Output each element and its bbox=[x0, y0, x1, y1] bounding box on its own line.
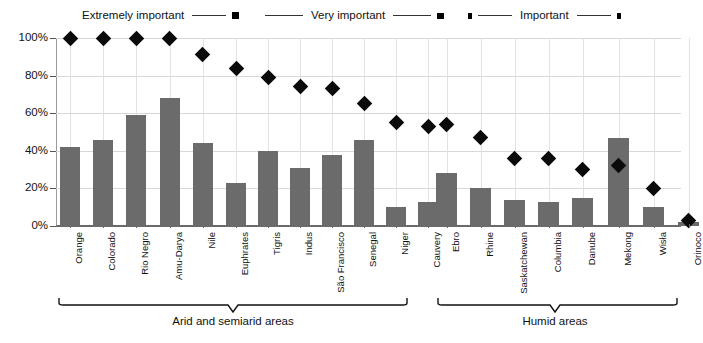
legend-label-important: Important bbox=[520, 10, 569, 22]
legend-line-important-left bbox=[478, 15, 512, 16]
x-axis-category-label: Mekong bbox=[623, 232, 633, 266]
x-axis-category-label: Nile bbox=[207, 232, 217, 248]
vertical-gridline bbox=[515, 38, 516, 226]
bar bbox=[572, 198, 593, 226]
x-axis-tick-mark bbox=[481, 224, 482, 228]
x-axis-category-label: Columbia bbox=[553, 232, 563, 272]
bracket-label-humid: Humid areas bbox=[495, 315, 615, 327]
y-axis-tick-label: 60% bbox=[2, 106, 48, 118]
bar bbox=[504, 200, 525, 226]
x-axis-tick-mark bbox=[619, 224, 620, 228]
x-axis-category-label: Euphrates bbox=[240, 232, 250, 275]
x-axis-category-label: Rhine bbox=[485, 232, 495, 257]
chart-legend: Extremely important Very important Impor… bbox=[0, 8, 699, 34]
x-axis-tick-mark bbox=[170, 224, 171, 228]
vertical-gridline bbox=[689, 38, 690, 226]
x-axis-category-label: Amu-Darya bbox=[174, 232, 184, 280]
legend-line-very-important-left bbox=[265, 15, 303, 16]
legend-small-square-icon-right bbox=[617, 13, 621, 19]
x-axis-tick-mark bbox=[203, 224, 204, 228]
vertical-gridline bbox=[396, 38, 397, 226]
legend-square-icon bbox=[437, 13, 444, 19]
x-axis-tick-mark bbox=[654, 224, 655, 228]
gridline-60 bbox=[56, 113, 681, 114]
bar bbox=[290, 168, 310, 226]
bar bbox=[322, 155, 342, 226]
legend-small-square-icon-left bbox=[468, 13, 472, 19]
x-axis-category-label: Colorado bbox=[107, 232, 117, 271]
x-axis-tick-mark bbox=[549, 224, 550, 228]
x-axis-tick-mark bbox=[447, 224, 448, 228]
bar bbox=[418, 202, 438, 226]
x-axis-tick-mark bbox=[332, 224, 333, 228]
legend-line-important-right bbox=[577, 15, 611, 16]
gridline-0 bbox=[56, 226, 681, 227]
x-axis-tick-mark bbox=[428, 224, 429, 228]
x-axis-tick-mark bbox=[364, 224, 365, 228]
legend-line-very-important-right bbox=[393, 15, 431, 16]
gridline-80 bbox=[56, 76, 681, 77]
x-axis-tick-mark bbox=[70, 224, 71, 228]
bar bbox=[258, 151, 278, 226]
legend-diamond-icon bbox=[232, 12, 239, 19]
y-axis-tick-label: 20% bbox=[2, 181, 48, 193]
x-axis-tick-mark bbox=[300, 224, 301, 228]
x-axis-tick-mark bbox=[396, 224, 397, 228]
legend-line-extremely-important bbox=[192, 15, 226, 16]
y-axis-tick-label: 0% bbox=[2, 219, 48, 231]
bar bbox=[93, 140, 113, 226]
bar bbox=[193, 143, 213, 226]
bar bbox=[226, 183, 246, 226]
x-axis-category-label: Tigris bbox=[272, 232, 282, 255]
x-axis-category-label: Cauvery bbox=[432, 232, 442, 267]
plot-area bbox=[56, 38, 681, 226]
group-brackets: Arid and semiarid areas Humid areas bbox=[0, 296, 699, 343]
x-axis-category-label: Ebro bbox=[451, 232, 461, 252]
x-axis-category-label: Indus bbox=[304, 232, 314, 255]
x-axis-tick-mark bbox=[103, 224, 104, 228]
x-axis-tick-mark bbox=[268, 224, 269, 228]
y-axis-tick-label: 80% bbox=[2, 69, 48, 81]
x-axis-labels: OrangeColoradoRio NegroAmu-DaryaNileEuph… bbox=[56, 228, 681, 298]
legend-entry-important: Important bbox=[468, 10, 621, 22]
bar bbox=[608, 138, 629, 226]
x-axis-tick-mark bbox=[136, 224, 137, 228]
x-axis-tick-mark bbox=[515, 224, 516, 228]
x-axis-category-label: Niger bbox=[400, 232, 410, 255]
bar bbox=[538, 202, 559, 226]
x-axis-category-label: Wisła bbox=[658, 232, 668, 255]
legend-label-very-important: Very important bbox=[311, 10, 385, 22]
legend-label-extremely-important: Extremely important bbox=[82, 10, 184, 22]
bracket-label-arid: Arid and semiarid areas bbox=[158, 315, 308, 327]
bar bbox=[126, 115, 146, 226]
bar bbox=[60, 147, 80, 226]
y-axis-tick-label: 40% bbox=[2, 144, 48, 156]
legend-entry-extremely-important: Extremely important bbox=[82, 10, 239, 22]
y-axis-tick-label: 100% bbox=[2, 31, 48, 43]
x-axis-category-label: Senegal bbox=[368, 232, 378, 267]
bracket-humid bbox=[438, 298, 677, 312]
x-axis-tick-mark bbox=[583, 224, 584, 228]
bracket-arid bbox=[59, 298, 407, 312]
x-axis-category-label: Saskatchewan bbox=[519, 232, 529, 294]
bar bbox=[470, 188, 491, 226]
legend-entry-very-important: Very important bbox=[265, 10, 444, 22]
gridline-100 bbox=[56, 38, 681, 39]
x-axis-tick-mark bbox=[236, 224, 237, 228]
x-axis-category-label: Orange bbox=[74, 232, 84, 264]
bar bbox=[160, 98, 180, 226]
bar bbox=[436, 173, 457, 226]
vertical-gridline bbox=[549, 38, 550, 226]
x-axis-category-label: Rio Negro bbox=[140, 232, 150, 275]
x-axis-category-label: Danube bbox=[587, 232, 597, 265]
vertical-gridline bbox=[654, 38, 655, 226]
bar bbox=[354, 140, 374, 226]
x-axis-category-label: São Francisco bbox=[336, 232, 346, 293]
x-axis-tick-mark bbox=[689, 224, 690, 228]
x-axis-category-label: Orinoco bbox=[693, 232, 703, 265]
